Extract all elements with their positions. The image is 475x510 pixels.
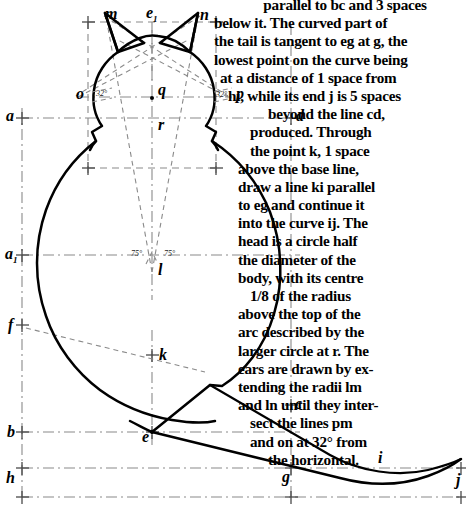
angle-label-l1: 75° <box>131 250 142 258</box>
label-o: o <box>76 86 84 102</box>
instruction-text-block: parallel to bc and 3 spaces below it. Th… <box>214 0 475 469</box>
instruction-line: lowest point on the curve being <box>214 51 475 69</box>
instruction-line: sect the lines pm <box>214 414 475 432</box>
body-outline <box>37 141 215 422</box>
instruction-line: head is a circle half <box>214 232 475 250</box>
instruction-line: arc described by the <box>214 323 475 341</box>
instruction-line: draw a line ki parallel <box>214 178 475 196</box>
plate-page: .solid { fill:none; stroke:#000; stroke-… <box>0 0 475 510</box>
label-a: a <box>6 108 14 124</box>
label-n: n <box>200 7 209 23</box>
label-f: f <box>8 317 13 333</box>
label-j: j <box>456 472 460 488</box>
instruction-line: the point k, 1 space <box>214 142 475 160</box>
instruction-line: beyond the line cd, <box>214 105 475 123</box>
instruction-line: the tail is tangent to eg at g, the <box>214 32 475 50</box>
instruction-line: above the top of the <box>214 305 475 323</box>
instruction-line: body, with its centre <box>214 269 475 287</box>
instruction-line: produced. Through <box>214 123 475 141</box>
label-k: k <box>159 347 167 363</box>
angle-label-o: 32° <box>96 90 107 98</box>
instruction-line: the horizontal. <box>214 451 475 469</box>
point-e <box>150 430 154 434</box>
instruction-line: parallel to bc and 3 spaces <box>214 0 475 14</box>
centre-point-q <box>150 96 154 100</box>
label-e: e <box>142 429 149 445</box>
head-and-ears-outline <box>90 13 118 150</box>
instruction-line: larger circle at r. The <box>214 342 475 360</box>
construction-rays <box>26 16 228 372</box>
label-m: m <box>105 6 117 22</box>
label-r: r <box>158 117 164 133</box>
label-q: q <box>158 82 166 98</box>
instruction-line: at a distance of 1 space from <box>214 69 475 87</box>
label-b: b <box>7 424 15 440</box>
label-h: h <box>6 470 15 486</box>
instruction-line: into the curve ij. The <box>214 214 475 232</box>
label-g: g <box>282 469 290 485</box>
instruction-line: and on at 32° from <box>214 433 475 451</box>
label-a1: a1 <box>5 246 18 268</box>
instruction-line: tending the radii lm <box>214 378 475 396</box>
instruction-line: hi, while its end j is 5 spaces <box>214 87 475 105</box>
tail-upper-edge <box>152 385 210 432</box>
instruction-line: 1/8 of the radius <box>214 287 475 305</box>
instruction-line: and ln until they inter- <box>214 396 475 414</box>
instruction-line: to eg and continue it <box>214 196 475 214</box>
angle-label-l2: 75° <box>164 250 175 258</box>
instruction-line: the diameter of the <box>214 251 475 269</box>
instruction-line: ears are drawn by ex- <box>214 360 475 378</box>
label-l: l <box>158 262 162 278</box>
label-e1: e1 <box>146 5 158 27</box>
instruction-line: below it. The curved part of <box>214 14 475 32</box>
instruction-line: above the base line, <box>214 160 475 178</box>
